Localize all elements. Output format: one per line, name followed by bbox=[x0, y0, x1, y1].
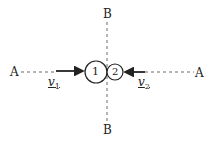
velocity-1-subscript: 1 bbox=[55, 82, 60, 91]
ball-1-label: 1 bbox=[92, 66, 99, 77]
velocity-2-label: v2 bbox=[138, 76, 150, 91]
axis-a-label-right: A bbox=[195, 67, 204, 79]
ball-2-label: 2 bbox=[112, 67, 118, 77]
velocity-1-label: v1 bbox=[48, 76, 60, 91]
velocity-2-symbol: v bbox=[138, 75, 145, 89]
velocity-2-subscript: 2 bbox=[145, 82, 150, 91]
collision-diagram bbox=[0, 0, 214, 142]
axis-b-label-top: B bbox=[103, 8, 112, 20]
velocity-1-symbol: v bbox=[48, 75, 55, 89]
axis-b-label-bottom: B bbox=[103, 124, 112, 136]
axis-a-label-left: A bbox=[10, 66, 19, 78]
